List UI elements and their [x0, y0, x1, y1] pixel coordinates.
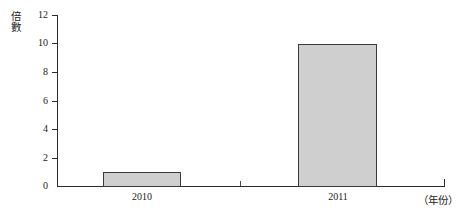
y-tick-label-6: 6: [26, 96, 48, 106]
y-tick-10: [52, 43, 58, 44]
x-axis-title: （年份）: [404, 192, 472, 207]
y-tick-12: [52, 15, 58, 16]
bar-chart: 倍 數 12 10 8 6 4 2 0 2010 2011 （年份）: [0, 0, 472, 218]
y-tick-8: [52, 72, 58, 73]
x-label-2011: 2011: [298, 191, 378, 203]
y-tick-label-4: 4: [26, 124, 48, 134]
y-tick-4: [52, 129, 58, 130]
y-tick-label-0: 0: [26, 181, 48, 191]
y-tick-6: [52, 101, 58, 102]
y-axis-title: 倍 數: [8, 11, 24, 33]
y-tick-label-2: 2: [26, 153, 48, 163]
y-axis-title-char-1: 倍: [8, 11, 24, 22]
bar-2011: [298, 44, 377, 187]
y-tick-2: [52, 158, 58, 159]
y-tick-label-12: 12: [26, 10, 48, 20]
y-tick-label-8: 8: [26, 67, 48, 77]
x-category-tick: [240, 181, 241, 186]
bar-2010: [103, 172, 181, 187]
x-axis-end-tick: [444, 179, 445, 187]
x-label-2010: 2010: [102, 191, 182, 203]
y-tick-label-10: 10: [26, 38, 48, 48]
y-axis-title-char-2: 數: [8, 22, 24, 33]
